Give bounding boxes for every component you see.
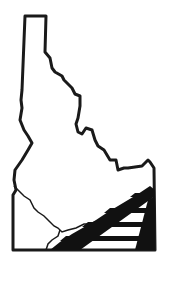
state-border	[13, 16, 155, 250]
idaho-map-graphic	[0, 0, 172, 286]
idaho-map	[0, 0, 172, 286]
